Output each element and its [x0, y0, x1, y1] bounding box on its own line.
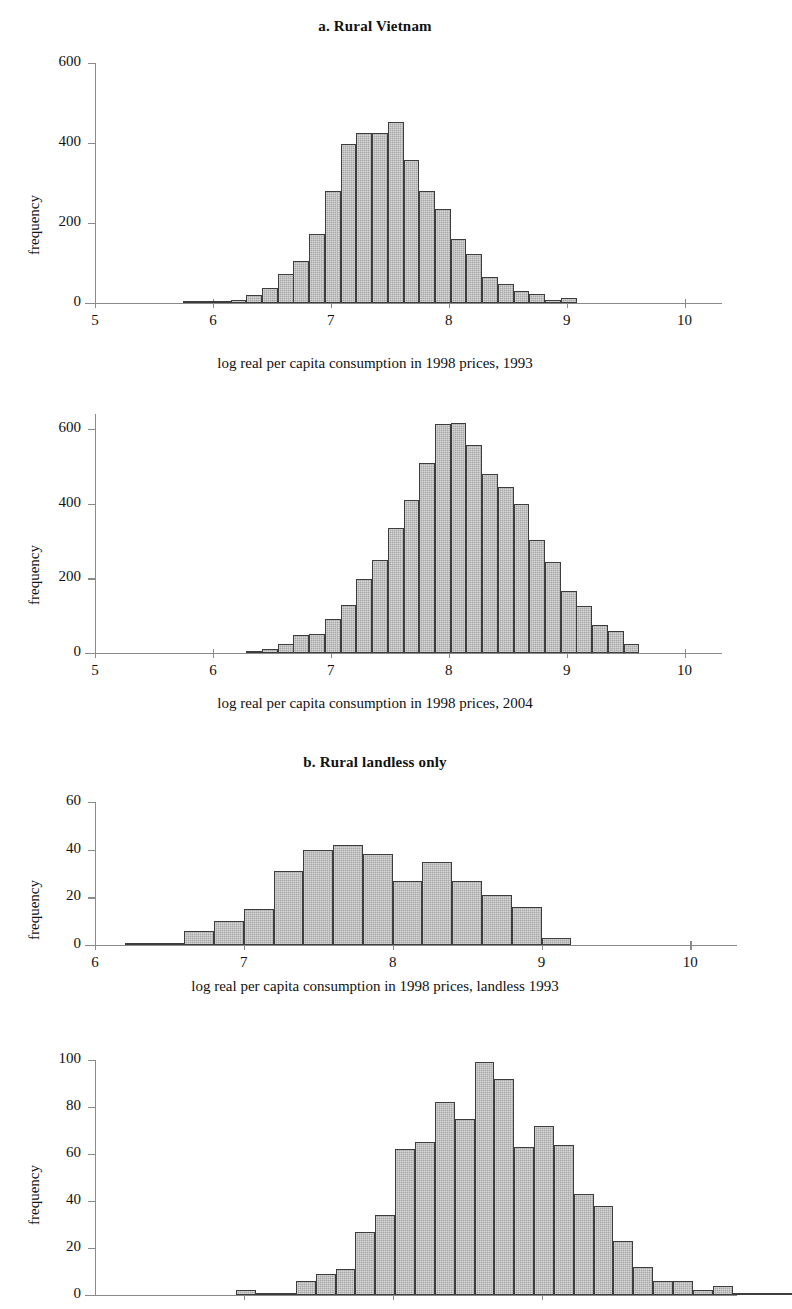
histogram-bar [529, 540, 545, 653]
histogram-bar [293, 261, 309, 303]
histogram-bar [514, 1147, 534, 1295]
y-tick [88, 1107, 95, 1108]
y-axis-line [95, 414, 96, 654]
y-tick [88, 578, 95, 579]
histogram-bar [514, 291, 530, 303]
y-tick [88, 1154, 95, 1155]
y-tick [88, 303, 95, 304]
y-tick [88, 143, 95, 144]
histogram-bar [482, 895, 512, 945]
histogram-bar [542, 938, 572, 945]
x-tick-label: 8 [419, 663, 479, 678]
histogram-bar [276, 1293, 296, 1295]
histogram-bar [419, 463, 435, 653]
x-tick-label: 5 [65, 313, 125, 328]
histogram-bar [388, 528, 404, 653]
histogram-bar [199, 301, 215, 303]
histogram-bar [341, 605, 357, 653]
x-tick-label: 10 [655, 663, 715, 678]
histogram-bar [592, 625, 608, 653]
y-tick-label: 0 [25, 644, 81, 659]
histogram-bar [244, 909, 274, 945]
x-axis-line [85, 653, 722, 654]
x-tick-label: 5 [65, 663, 125, 678]
histogram-bar [309, 634, 325, 653]
x-tick-label: 9 [537, 313, 597, 328]
x-tick-label: 10 [655, 313, 715, 328]
y-tick-label: 80 [25, 1098, 81, 1113]
histogram-bar [419, 191, 435, 303]
histogram-bar [561, 591, 577, 653]
histogram-bar [325, 191, 341, 303]
histogram-bar [482, 277, 498, 303]
histogram-bar [183, 301, 199, 303]
histogram-bar [415, 1142, 435, 1295]
x-tick-label: 7 [214, 955, 274, 970]
panel-rural-vietnam-2004: frequency 02004006005678910 log real per… [0, 390, 750, 740]
x-tick [95, 941, 96, 950]
x-tick-label: 6 [183, 663, 243, 678]
x-axis-label-1: log real per capita consumption in 1998 … [0, 355, 750, 372]
histogram-bar [404, 160, 420, 303]
histogram-bar [316, 1274, 336, 1295]
histogram-bar [155, 943, 185, 945]
histogram-bar [498, 284, 514, 303]
y-tick-label: 200 [25, 569, 81, 584]
histogram-bar [341, 144, 357, 303]
x-tick-label: 6 [183, 313, 243, 328]
panel-rural-landless-2004: frequency 020406080100 [0, 1010, 750, 1309]
y-tick [88, 504, 95, 505]
plot-area-1: 02004006005678910 [0, 0, 750, 340]
histogram-bar [534, 1126, 554, 1295]
histogram-bar [673, 1281, 693, 1295]
histogram-bar [333, 845, 363, 945]
x-tick-label: 6 [65, 955, 125, 970]
histogram-bar [594, 1206, 614, 1295]
histogram-bar [246, 295, 262, 303]
histogram-bar [772, 1293, 792, 1295]
histogram-bar [494, 1079, 514, 1295]
histogram-bar [256, 1293, 276, 1295]
y-tick-label: 200 [25, 214, 81, 229]
histogram-bar [455, 1119, 475, 1295]
x-axis-line [85, 1295, 737, 1296]
y-tick [88, 653, 95, 654]
y-axis-line [95, 802, 96, 946]
histogram-bar [466, 254, 482, 303]
histogram-bar [653, 1281, 673, 1295]
y-tick [88, 850, 95, 851]
y-tick-label: 20 [25, 1239, 81, 1254]
y-axis-line [95, 63, 96, 304]
y-tick [88, 1248, 95, 1249]
histogram-bar [372, 133, 388, 303]
histogram-bar [466, 445, 482, 653]
x-axis-label-3: log real per capita consumption in 1998 … [0, 978, 750, 995]
panel-rural-landless-1993: b. Rural landless only frequency 0204060… [0, 740, 750, 1010]
histogram-bar [498, 487, 514, 653]
y-tick-label: 100 [25, 1051, 81, 1066]
y-tick-label: 20 [25, 888, 81, 903]
histogram-bar [435, 424, 451, 653]
x-tick-label: 7 [301, 663, 361, 678]
y-tick-label: 40 [25, 841, 81, 856]
histogram-bar [395, 1149, 415, 1295]
histogram-bar [545, 562, 561, 653]
x-tick [213, 649, 214, 658]
x-tick [95, 649, 96, 658]
histogram-bar [363, 854, 393, 945]
x-axis-label-2: log real per capita consumption in 1998 … [0, 695, 750, 712]
histogram-bar [214, 921, 244, 945]
x-tick [685, 649, 686, 658]
histogram-bar [576, 606, 592, 653]
histogram-bar [545, 300, 561, 303]
histogram-bar [375, 1215, 395, 1295]
x-tick-label: 8 [363, 955, 423, 970]
histogram-bar [482, 474, 498, 653]
histogram-bar [713, 1286, 733, 1295]
histogram-bar [633, 1267, 653, 1295]
x-tick [685, 299, 686, 308]
histogram-bar [732, 1293, 752, 1295]
y-tick [88, 63, 95, 64]
histogram-bar [236, 1290, 256, 1295]
histogram-bar [356, 579, 372, 653]
